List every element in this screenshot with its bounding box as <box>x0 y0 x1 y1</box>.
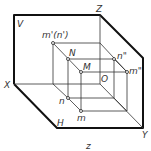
label-m: m <box>77 113 86 123</box>
label-n: n <box>59 96 65 106</box>
label-X: X <box>3 80 11 90</box>
label-m-prime-n-prime: m'(n') <box>42 30 68 40</box>
projection-diagram: V H Z X Y O m'(n') N M n" m" n m z <box>0 0 151 151</box>
caption: z <box>85 141 91 151</box>
label-H: H <box>57 118 64 128</box>
label-n-double-prime: n" <box>117 51 127 61</box>
label-Y: Y <box>142 130 149 140</box>
label-Z: Z <box>95 4 103 14</box>
label-m-double-prime: m" <box>129 66 142 76</box>
label-N: N <box>69 48 76 58</box>
point-n <box>67 97 70 100</box>
label-O: O <box>101 74 108 84</box>
point-n-double-prime <box>113 58 116 61</box>
point-m-prime <box>52 42 55 45</box>
label-M: M <box>83 62 91 72</box>
label-V: V <box>17 19 24 29</box>
